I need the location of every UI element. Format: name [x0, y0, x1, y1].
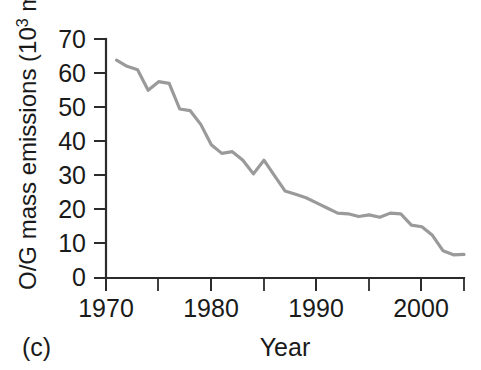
svg-text:O/G mass emissions (103 mt): O/G mass emissions (103 mt)	[14, 0, 41, 290]
x-tick-label: 1990	[288, 294, 344, 322]
y-tick-label: 60	[58, 59, 86, 87]
y-tick-label: 10	[58, 229, 86, 257]
y-tick-label: 50	[58, 93, 86, 121]
x-tick-label: 2000	[393, 294, 449, 322]
x-axis-title: Year	[260, 333, 311, 361]
panel-label: (c)	[22, 333, 51, 361]
y-axis-label-suffix: mt)	[14, 0, 41, 18]
y-axis-label-exponent: 3	[14, 18, 31, 27]
chart-figure: O/G mass emissions (103 mt) 70 60 50 40 …	[0, 0, 481, 370]
y-tick-label: 30	[58, 161, 86, 189]
chart-svg: O/G mass emissions (103 mt) 70 60 50 40 …	[0, 0, 481, 370]
y-tick-label: 0	[72, 263, 86, 291]
y-axis-label-prefix: O/G mass emissions (10	[14, 27, 41, 290]
y-axis-label: O/G mass emissions (103 mt)	[14, 0, 41, 290]
x-tick-label: 1970	[78, 294, 134, 322]
y-tick-label: 40	[58, 127, 86, 155]
y-tick-label: 20	[58, 195, 86, 223]
x-tick-label: 1980	[183, 294, 239, 322]
y-tick-label: 70	[58, 25, 86, 53]
